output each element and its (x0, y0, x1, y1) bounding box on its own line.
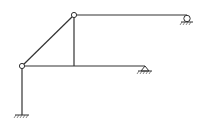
pin-support-icon (137, 66, 152, 74)
frame-diagram (0, 0, 208, 130)
left-hinge-icon (19, 63, 24, 68)
diagonal-member (22, 15, 74, 66)
fixed-support-icon (14, 115, 29, 118)
frame-diagram-svg (0, 0, 208, 130)
roller-support-icon (180, 15, 193, 25)
top-hinge-icon (71, 12, 76, 17)
